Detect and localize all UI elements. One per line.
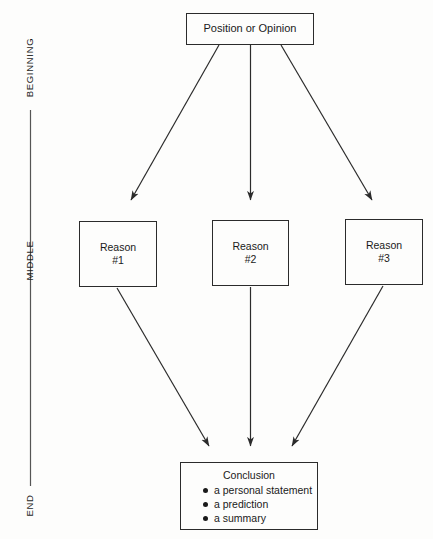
conclusion-item-label: a personal statement [214, 484, 312, 496]
bullet-icon [203, 516, 208, 521]
connector-position-to-reason-1 [131, 45, 219, 200]
node-conclusion[interactable]: Conclusion a personal statement a predic… [180, 462, 318, 530]
node-reason-2-number: #2 [245, 253, 257, 267]
node-reason-3[interactable]: Reason #3 [345, 219, 423, 285]
connector-position-to-reason-3 [281, 45, 372, 200]
bullet-icon [203, 488, 208, 493]
conclusion-item: a summary [203, 511, 317, 525]
diagram-page: BEGINNING MIDDLE END Position or Opinion… [0, 0, 433, 539]
stage-label-middle: MIDDLE [24, 228, 35, 294]
node-reason-2[interactable]: Reason #2 [212, 220, 289, 286]
node-reason-1-number: #1 [112, 254, 124, 268]
node-reason-3-number: #3 [378, 252, 390, 266]
connector-reason-1-to-conclusion [117, 288, 209, 446]
node-reason-1-label: Reason [100, 241, 136, 255]
node-position-label: Position or Opinion [204, 22, 297, 36]
conclusion-item-label: a summary [214, 512, 266, 524]
conclusion-item: a personal statement [203, 483, 317, 497]
node-reason-3-label: Reason [366, 239, 402, 253]
conclusion-item-label: a prediction [214, 498, 268, 510]
stage-label-beginning: BEGINNING [24, 23, 35, 113]
node-position-or-opinion[interactable]: Position or Opinion [186, 13, 314, 45]
node-reason-1[interactable]: Reason #1 [79, 221, 157, 287]
connector-reason-3-to-conclusion [292, 286, 383, 446]
conclusion-item: a prediction [203, 497, 317, 511]
conclusion-title: Conclusion [181, 469, 317, 482]
node-reason-2-label: Reason [232, 240, 268, 254]
stage-label-end: END [24, 485, 35, 527]
conclusion-item-list: a personal statement a prediction a summ… [181, 483, 317, 525]
bullet-icon [203, 502, 208, 507]
